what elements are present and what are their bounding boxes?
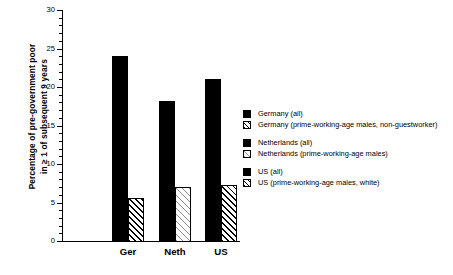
legend-item-label: Netherlands (prime-working-age males) bbox=[258, 150, 388, 158]
y-tick-major bbox=[57, 203, 62, 204]
legend-item-label: Germany (prime-working-age males, non-gu… bbox=[258, 121, 438, 129]
y-tick-minor bbox=[59, 41, 62, 42]
legend-swatch-icon bbox=[243, 168, 251, 176]
y-tick-minor bbox=[59, 25, 62, 26]
bar bbox=[175, 187, 191, 242]
y-tick-minor bbox=[59, 72, 62, 73]
legend-item-label: Germany (all) bbox=[258, 110, 303, 118]
legend-item[interactable]: Netherlands (all) bbox=[243, 137, 453, 148]
chart-legend: Germany (all)Germany (prime-working-age … bbox=[243, 108, 453, 195]
y-tick-minor bbox=[59, 133, 62, 134]
plot-area: 051015202530 GerNethUS bbox=[62, 10, 227, 242]
y-tick-major bbox=[57, 241, 62, 242]
bar bbox=[205, 79, 221, 242]
y-tick-minor bbox=[59, 226, 62, 227]
legend-group: Netherlands (all)Netherlands (prime-work… bbox=[243, 137, 453, 159]
y-tick-minor bbox=[59, 79, 62, 80]
bar bbox=[159, 101, 175, 242]
y-tick-major bbox=[57, 49, 62, 50]
y-tick-major bbox=[57, 10, 62, 11]
chart-figure: Percentage of pre-government poorin ≥ 1 … bbox=[0, 0, 453, 275]
y-axis-title-line-1: Percentage of pre-government poor bbox=[27, 44, 37, 190]
y-tick-minor bbox=[59, 218, 62, 219]
y-tick-minor bbox=[59, 172, 62, 173]
legend-swatch-icon bbox=[243, 121, 251, 129]
y-tick-minor bbox=[59, 95, 62, 96]
bar bbox=[128, 198, 144, 242]
legend-item-label: US (prime-working-age males, white) bbox=[258, 179, 380, 187]
y-tick-major bbox=[57, 164, 62, 165]
legend-item[interactable]: Netherlands (prime-working-age males) bbox=[243, 148, 453, 159]
y-tick-minor bbox=[59, 187, 62, 188]
legend-group: US (all)US (prime-working-age males, whi… bbox=[243, 166, 453, 188]
y-tick-label: 15 bbox=[47, 122, 55, 130]
legend-item[interactable]: Germany (all) bbox=[243, 108, 453, 119]
y-tick-label: 30 bbox=[47, 6, 55, 14]
y-tick-minor bbox=[59, 18, 62, 19]
y-tick-label: 5 bbox=[51, 199, 55, 207]
y-tick-minor bbox=[59, 210, 62, 211]
y-tick-minor bbox=[59, 118, 62, 119]
legend-swatch-icon bbox=[243, 150, 251, 158]
legend-item[interactable]: US (all) bbox=[243, 166, 453, 177]
y-tick-minor bbox=[59, 56, 62, 57]
y-tick-label: 20 bbox=[47, 83, 55, 91]
legend-item-label: US (all) bbox=[258, 168, 283, 176]
legend-item-label: Netherlands (all) bbox=[258, 139, 312, 147]
y-tick-label: 0 bbox=[51, 237, 55, 245]
bar bbox=[221, 185, 237, 242]
legend-swatch-icon bbox=[243, 110, 251, 118]
legend-group: Germany (all)Germany (prime-working-age … bbox=[243, 108, 453, 130]
y-axis-title-line-2: in ≥ 1 of subsequent 9 years bbox=[38, 59, 48, 174]
y-tick-minor bbox=[59, 110, 62, 111]
legend-swatch-icon bbox=[243, 179, 251, 187]
x-tick-label: US bbox=[193, 246, 249, 257]
y-tick-minor bbox=[59, 179, 62, 180]
legend-swatch-icon bbox=[243, 139, 251, 147]
y-tick-minor bbox=[59, 64, 62, 65]
y-tick-minor bbox=[59, 195, 62, 196]
y-tick-minor bbox=[59, 156, 62, 157]
y-axis-line bbox=[62, 10, 63, 242]
legend-item[interactable]: Germany (prime-working-age males, non-gu… bbox=[243, 119, 453, 130]
y-tick-label: 10 bbox=[47, 160, 55, 168]
y-tick-major bbox=[57, 87, 62, 88]
y-tick-minor bbox=[59, 149, 62, 150]
y-tick-minor bbox=[59, 102, 62, 103]
y-tick-minor bbox=[59, 141, 62, 142]
y-tick-label: 25 bbox=[47, 45, 55, 53]
bar bbox=[112, 56, 128, 242]
y-tick-minor bbox=[59, 33, 62, 34]
y-tick-minor bbox=[59, 233, 62, 234]
legend-item[interactable]: US (prime-working-age males, white) bbox=[243, 177, 453, 188]
y-tick-major bbox=[57, 126, 62, 127]
